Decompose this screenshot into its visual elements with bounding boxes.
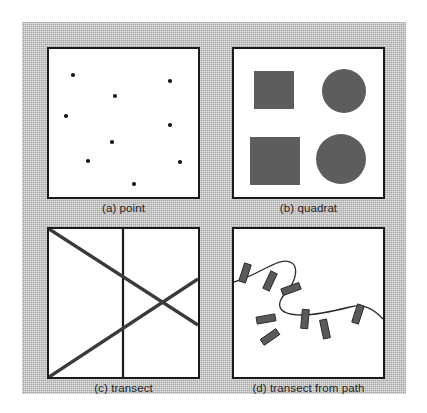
sample-point (113, 94, 117, 98)
panel-point-graphic (49, 49, 198, 197)
sample-point (71, 73, 75, 77)
path-transect-tick (260, 329, 280, 346)
path-transect-tick (263, 271, 277, 291)
sample-point (168, 123, 172, 127)
panel-transect-graphic (49, 229, 198, 377)
panel-quadrat-caption: (b) quadrat (232, 201, 385, 215)
panel-grid: (a) point (b) quadrat (c) transect (d) t… (0, 0, 427, 413)
path-transect-tick (320, 319, 331, 339)
sample-point (132, 182, 136, 186)
panel-quadrat: (b) quadrat (232, 47, 385, 216)
sample-point (178, 160, 182, 164)
sample-point (86, 159, 90, 163)
panel-quadrat-graphic (234, 49, 383, 197)
quadrat-circle (322, 69, 366, 113)
path-transect-tick (301, 309, 310, 329)
panel-transect-caption: (c) transect (47, 381, 200, 395)
path-transect-tick (239, 263, 252, 283)
panel-transect-from-path: (d) transect from path (232, 227, 385, 396)
quadrat-square (250, 137, 300, 185)
sample-point (168, 79, 172, 83)
quadrat-square (254, 71, 294, 109)
sample-point (64, 114, 68, 118)
path-transect-tick (256, 314, 276, 324)
panel-point-caption: (a) point (47, 201, 200, 215)
figure-root: (a) point (b) quadrat (c) transect (d) t… (0, 0, 427, 413)
panel-path-graphic (234, 229, 383, 377)
panel-path-caption: (d) transect from path (232, 381, 385, 395)
sample-point (110, 140, 114, 144)
quadrat-circle (316, 134, 366, 184)
panel-point: (a) point (47, 47, 200, 216)
panel-transect: (c) transect (47, 227, 200, 396)
